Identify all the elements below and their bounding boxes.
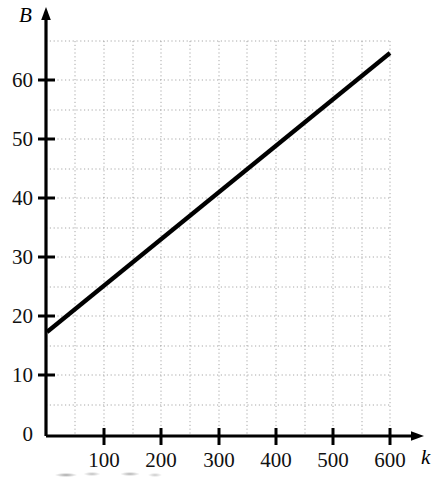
x-tick-label-100: 100 <box>88 450 120 471</box>
x-tick-label-200: 200 <box>145 450 177 471</box>
x-axis-label: k <box>421 447 430 468</box>
chart-canvas <box>0 0 446 481</box>
y-axis-label: B <box>19 5 32 26</box>
y-tick-label-10: 10 <box>12 365 33 386</box>
grid-minor-horizontal <box>46 41 390 436</box>
chart-figure: B k 0 10 20 30 40 50 60 100 200 300 400 … <box>0 0 446 481</box>
y-tick-label-20: 20 <box>12 306 33 327</box>
x-tick-label-600: 600 <box>374 450 406 471</box>
x-tick-label-400: 400 <box>260 450 292 471</box>
y-tick-label-50: 50 <box>12 129 33 150</box>
x-tick-label-500: 500 <box>317 450 349 471</box>
y-tick-label-40: 40 <box>12 188 33 209</box>
y-tick-label-60: 60 <box>12 70 33 91</box>
y-axis <box>41 7 51 436</box>
grid-minor-vertical <box>75 41 390 436</box>
y-tick-label-30: 30 <box>12 247 33 268</box>
x-tick-label-300: 300 <box>203 450 235 471</box>
y-tick-label-0: 0 <box>23 424 34 445</box>
